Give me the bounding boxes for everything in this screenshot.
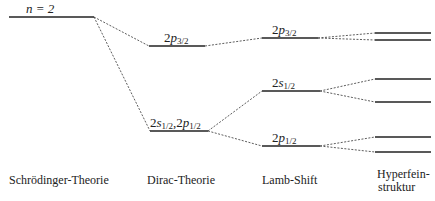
connector bbox=[205, 38, 262, 46]
label-n2: n = 2 bbox=[26, 2, 54, 15]
connector bbox=[94, 17, 150, 131]
column-label-hyperfine-line1: Hyperfein- bbox=[377, 168, 430, 180]
column-label-lamb: Lamb-Shift bbox=[262, 174, 317, 186]
connector bbox=[320, 79, 375, 91]
connector bbox=[208, 91, 262, 131]
connector bbox=[94, 17, 149, 46]
connector bbox=[320, 137, 375, 146]
label-dirac-2s12-2p12: 2s1/2,2p1/2 bbox=[150, 116, 201, 131]
label-lamb-2s12: 2s1/2 bbox=[272, 76, 295, 91]
connector bbox=[318, 38, 375, 40]
connector bbox=[320, 146, 375, 152]
state-sub: 3/2 bbox=[285, 28, 297, 38]
column-label-dirac: Dirac-Theorie bbox=[147, 174, 215, 186]
state-sub: 1/2 bbox=[162, 121, 174, 131]
connector bbox=[208, 131, 262, 146]
state-sub: 1/2 bbox=[189, 121, 201, 131]
label-lamb-2p12: 2p1/2 bbox=[272, 131, 297, 146]
column-label-hyperfine-line2: struktur bbox=[378, 181, 415, 193]
column-label-schroedinger: Schrödinger-Theorie bbox=[9, 174, 109, 186]
label-lamb-2p32: 2p3/2 bbox=[272, 23, 297, 38]
connector bbox=[318, 33, 375, 38]
state-sub: 1/2 bbox=[285, 136, 297, 146]
state-sub: 3/2 bbox=[177, 36, 189, 46]
state-sub: 1/2 bbox=[284, 81, 296, 91]
energy-level-diagram bbox=[0, 0, 435, 201]
n2-text: n = 2 bbox=[26, 1, 54, 16]
label-dirac-2p32: 2p3/2 bbox=[164, 31, 189, 46]
connector bbox=[320, 91, 375, 102]
